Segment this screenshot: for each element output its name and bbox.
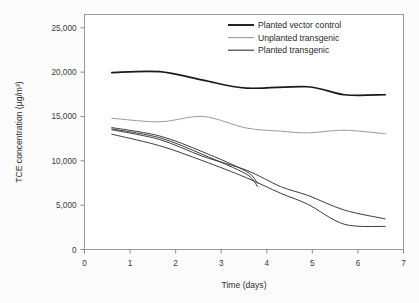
y-tick-label: 5,000 — [56, 201, 77, 210]
x-tick-label: 1 — [128, 259, 133, 268]
y-tick-label: 20,000 — [51, 68, 76, 77]
x-tick-label: 6 — [356, 259, 361, 268]
x-tick-label: 2 — [173, 259, 178, 268]
x-tick-label: 3 — [219, 259, 224, 268]
y-tick-label: 10,000 — [51, 157, 76, 166]
legend-label-3: Planted transgenic — [258, 45, 330, 55]
y-tick-label: 15,000 — [51, 112, 76, 121]
chart-legend: Planted vector controlUnplanted transgen… — [228, 20, 341, 55]
x-tick-label: 5 — [310, 259, 315, 268]
chart-figure: 05,00010,00015,00020,00025,000 01234567 … — [0, 0, 419, 303]
tce-concentration-line-chart: 05,00010,00015,00020,00025,000 01234567 … — [0, 0, 419, 303]
x-axis-label: Time (days) — [221, 280, 266, 290]
x-tick-label: 7 — [401, 259, 406, 268]
x-tick-label: 0 — [82, 259, 87, 268]
y-axis-label: TCE concentration (µg/m³) — [14, 81, 24, 183]
x-tick-label: 4 — [265, 259, 270, 268]
y-tick-label: 25,000 — [51, 24, 76, 33]
legend-label-1: Planted vector control — [258, 20, 341, 30]
y-tick-label: 0 — [72, 246, 77, 255]
legend-label-2: Unplanted transgenic — [258, 33, 340, 43]
